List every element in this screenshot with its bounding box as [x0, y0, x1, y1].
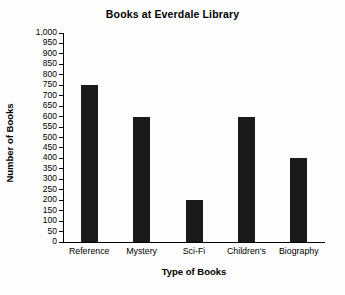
- x-axis-line: [63, 242, 325, 243]
- bar: [186, 200, 203, 242]
- bar: [133, 117, 150, 242]
- y-axis-tick-label: 900: [43, 48, 57, 59]
- x-axis-title: Type of Books: [63, 266, 325, 277]
- y-axis-title: Number of Books: [4, 88, 15, 198]
- y-axis-tick-label: 650: [43, 100, 57, 111]
- y-axis-tick-label: 200: [43, 194, 57, 205]
- y-axis-tick-label: 550: [43, 121, 57, 132]
- y-axis-tick-label: 300: [43, 173, 57, 184]
- y-axis-tick-label: 500: [43, 132, 57, 143]
- x-axis-category-label: Biography: [273, 246, 325, 256]
- y-axis-tick-label: 150: [43, 205, 57, 216]
- y-axis-tick-label: 350: [43, 163, 57, 174]
- y-axis-tick-label: 400: [43, 152, 57, 163]
- bar: [238, 117, 255, 242]
- y-axis-tick-label: 600: [43, 111, 57, 122]
- x-axis-category-label: Mystery: [115, 246, 167, 256]
- x-axis-category-label: Children's: [220, 246, 272, 256]
- y-axis-tick-label: 700: [43, 90, 57, 101]
- y-axis-tick-label: 100: [43, 215, 57, 226]
- y-axis-tick-label: 450: [43, 142, 57, 153]
- plot-area: [63, 33, 325, 242]
- bar-chart-figure: Books at Everdale Library Number of Book…: [0, 0, 345, 295]
- chart-title: Books at Everdale Library: [0, 8, 345, 20]
- y-axis-tick-label: 800: [43, 69, 57, 80]
- x-axis-category-label: Sci-Fi: [168, 246, 220, 256]
- y-axis-tick-label: 250: [43, 184, 57, 195]
- y-axis-tick-label: 850: [43, 58, 57, 69]
- x-axis-category-label: Reference: [63, 246, 115, 256]
- y-axis-tick-label: 1,000: [36, 27, 57, 38]
- bar: [81, 85, 98, 242]
- y-axis-tick-label: 750: [43, 79, 57, 90]
- bar: [290, 158, 307, 242]
- y-axis-tick-label: 50: [48, 226, 57, 237]
- y-axis-tick-label: 0: [52, 236, 57, 247]
- y-axis-tick-label: 950: [43, 37, 57, 48]
